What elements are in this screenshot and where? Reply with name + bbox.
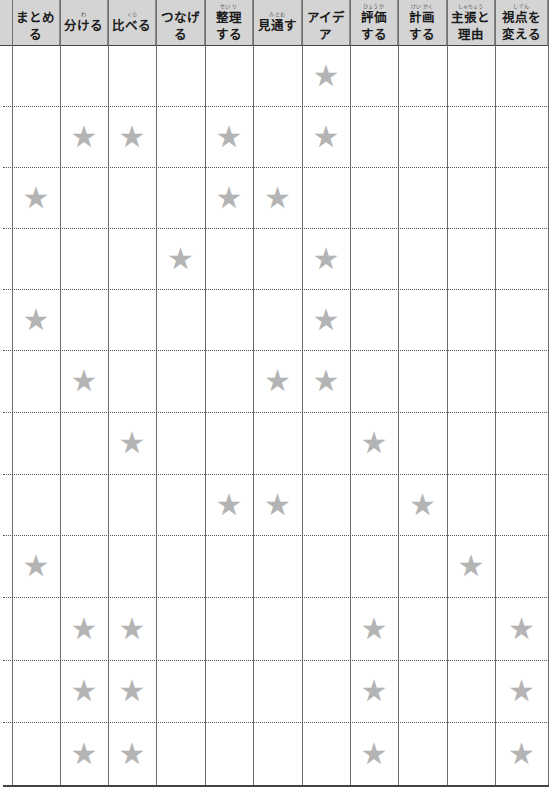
table-cell: ★ <box>495 660 548 722</box>
star-icon: ★ <box>409 490 436 520</box>
table-cell: ★ <box>302 45 350 106</box>
column-label: 主張と <box>451 9 490 26</box>
table-cell: ★ <box>495 597 548 660</box>
star-icon: ★ <box>216 183 243 213</box>
table-cell: ★ <box>60 350 108 412</box>
star-icon: ★ <box>508 676 535 706</box>
table-cell: ★ <box>60 597 108 660</box>
table-cell: ★ <box>302 106 350 167</box>
star-icon: ★ <box>264 183 291 213</box>
column-label: 計画 <box>409 9 435 26</box>
star-icon: ★ <box>361 428 388 458</box>
column-label: まとめる <box>12 9 59 43</box>
table-cell: ★ <box>12 167 60 228</box>
star-icon: ★ <box>361 739 388 769</box>
column-header: わ分ける <box>60 0 108 45</box>
star-icon: ★ <box>264 490 291 520</box>
star-icon: ★ <box>23 551 50 581</box>
column-label-line2: する <box>361 26 387 43</box>
row-divider <box>3 412 549 413</box>
table-bottom-border <box>3 785 549 787</box>
star-icon: ★ <box>361 676 388 706</box>
column-divider <box>398 0 399 785</box>
column-divider <box>12 0 13 785</box>
table-cell: ★ <box>60 722 108 785</box>
table-cell: ★ <box>12 535 60 597</box>
star-icon: ★ <box>71 614 98 644</box>
column-header: し てん視点を変える <box>495 0 548 45</box>
column-header: つなげる <box>156 0 205 45</box>
star-icon: ★ <box>23 183 50 213</box>
column-header: まとめる <box>12 0 60 45</box>
table-cell: ★ <box>302 228 350 289</box>
table-cell: ★ <box>108 412 156 474</box>
column-header: しゅちょう主張と理由 <box>447 0 495 45</box>
star-icon: ★ <box>216 122 243 152</box>
row-divider <box>3 228 549 229</box>
table-cell: ★ <box>253 167 302 228</box>
column-label: つなげる <box>156 9 204 43</box>
table-cell: ★ <box>350 412 398 474</box>
column-label: 視点を <box>502 9 541 26</box>
table-cell: ★ <box>108 597 156 660</box>
table-cell: ★ <box>350 722 398 785</box>
star-icon: ★ <box>313 366 340 396</box>
column-divider <box>156 0 157 785</box>
star-icon: ★ <box>216 490 243 520</box>
table-cell: ★ <box>60 660 108 722</box>
star-icon: ★ <box>119 122 146 152</box>
star-icon: ★ <box>119 428 146 458</box>
star-icon: ★ <box>119 676 146 706</box>
column-label: 分ける <box>64 17 103 34</box>
table-cell: ★ <box>12 289 60 350</box>
star-icon: ★ <box>313 61 340 91</box>
star-icon: ★ <box>119 614 146 644</box>
table-cell: ★ <box>108 106 156 167</box>
table-cell: ★ <box>253 350 302 412</box>
column-label-line2: する <box>216 26 242 43</box>
table-cell: ★ <box>302 350 350 412</box>
table-cell: ★ <box>108 660 156 722</box>
column-label: 整理 <box>216 9 242 26</box>
star-icon: ★ <box>313 305 340 335</box>
column-header: ひょう か評価する <box>350 0 398 45</box>
column-header: けい かく計画する <box>398 0 447 45</box>
star-icon: ★ <box>71 676 98 706</box>
table-cell: ★ <box>205 474 253 535</box>
column-divider <box>447 0 448 785</box>
table-cell: ★ <box>205 106 253 167</box>
star-icon: ★ <box>508 739 535 769</box>
star-icon: ★ <box>167 244 194 274</box>
column-label-line2: する <box>409 26 435 43</box>
column-divider <box>548 0 549 785</box>
column-label: 比べる <box>112 17 151 34</box>
column-header: み とお見通す <box>253 0 302 45</box>
star-icon: ★ <box>313 122 340 152</box>
star-icon: ★ <box>361 614 388 644</box>
table-cell: ★ <box>205 167 253 228</box>
table-cell: ★ <box>398 474 447 535</box>
row-divider <box>3 289 549 290</box>
column-label-line2: 理由 <box>458 26 484 43</box>
column-header: アイデア <box>302 0 350 45</box>
table-cell: ★ <box>447 535 495 597</box>
column-label: アイデア <box>302 9 349 43</box>
star-icon: ★ <box>508 614 535 644</box>
column-header: せい り整理する <box>205 0 253 45</box>
table-cell: ★ <box>108 722 156 785</box>
column-label: 見通す <box>258 17 297 34</box>
table-cell: ★ <box>156 228 205 289</box>
star-icon: ★ <box>458 551 485 581</box>
star-icon: ★ <box>71 122 98 152</box>
column-label-line2: 変える <box>502 26 541 43</box>
star-icon: ★ <box>264 366 291 396</box>
star-icon: ★ <box>71 739 98 769</box>
table-cell: ★ <box>495 722 548 785</box>
star-icon: ★ <box>119 739 146 769</box>
table-cell: ★ <box>253 474 302 535</box>
table-cell: ★ <box>350 597 398 660</box>
star-icon: ★ <box>23 305 50 335</box>
column-label: 評価 <box>361 9 387 26</box>
star-icon: ★ <box>71 366 98 396</box>
star-icon: ★ <box>313 244 340 274</box>
